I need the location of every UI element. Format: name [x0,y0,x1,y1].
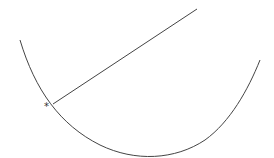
line-segment [53,9,197,104]
curve [20,40,260,156]
diagram-svg [0,0,274,158]
diagram-canvas: * [0,0,274,158]
point-marker: * [44,101,49,112]
